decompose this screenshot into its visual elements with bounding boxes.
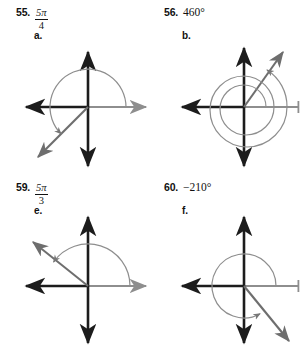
angle-diagram-e (0, 175, 150, 350)
angle-arc (54, 244, 130, 286)
terminal-ray (244, 286, 289, 341)
angle-diagram-f (150, 175, 300, 350)
worksheet-page: 55. 5π 4 a. (0, 0, 300, 350)
problem-cell-60: 60. −210° f. (150, 175, 300, 350)
problem-cell-55: 55. 5π 4 a. (0, 0, 150, 175)
problem-cell-59: 59. 5π 3 e. (0, 175, 150, 350)
terminal-ray (38, 107, 88, 157)
terminal-ray (33, 242, 88, 286)
angle-diagram-b (150, 0, 300, 175)
angle-diagram-a (0, 0, 150, 175)
problem-cell-56: 56. 460° b. (150, 0, 300, 175)
angle-arc-spiral (210, 70, 287, 147)
